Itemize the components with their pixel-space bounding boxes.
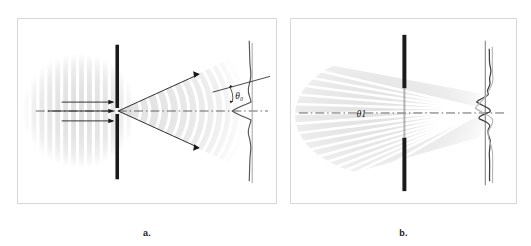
angle-label-b: θ1: [356, 108, 366, 119]
panel-a-caption: a.: [0, 228, 294, 238]
panel-a-single-slit: θ₀: [17, 18, 277, 204]
panel-a-drawing: θ₀: [18, 19, 276, 203]
figure-container: θ₀: [0, 0, 531, 246]
angle-label-a: θ₀: [235, 91, 243, 101]
panel-b-drawing: θ1: [291, 19, 516, 203]
panel-b-caption: b.: [290, 228, 517, 238]
panel-b-double-slit: θ1: [290, 18, 517, 204]
